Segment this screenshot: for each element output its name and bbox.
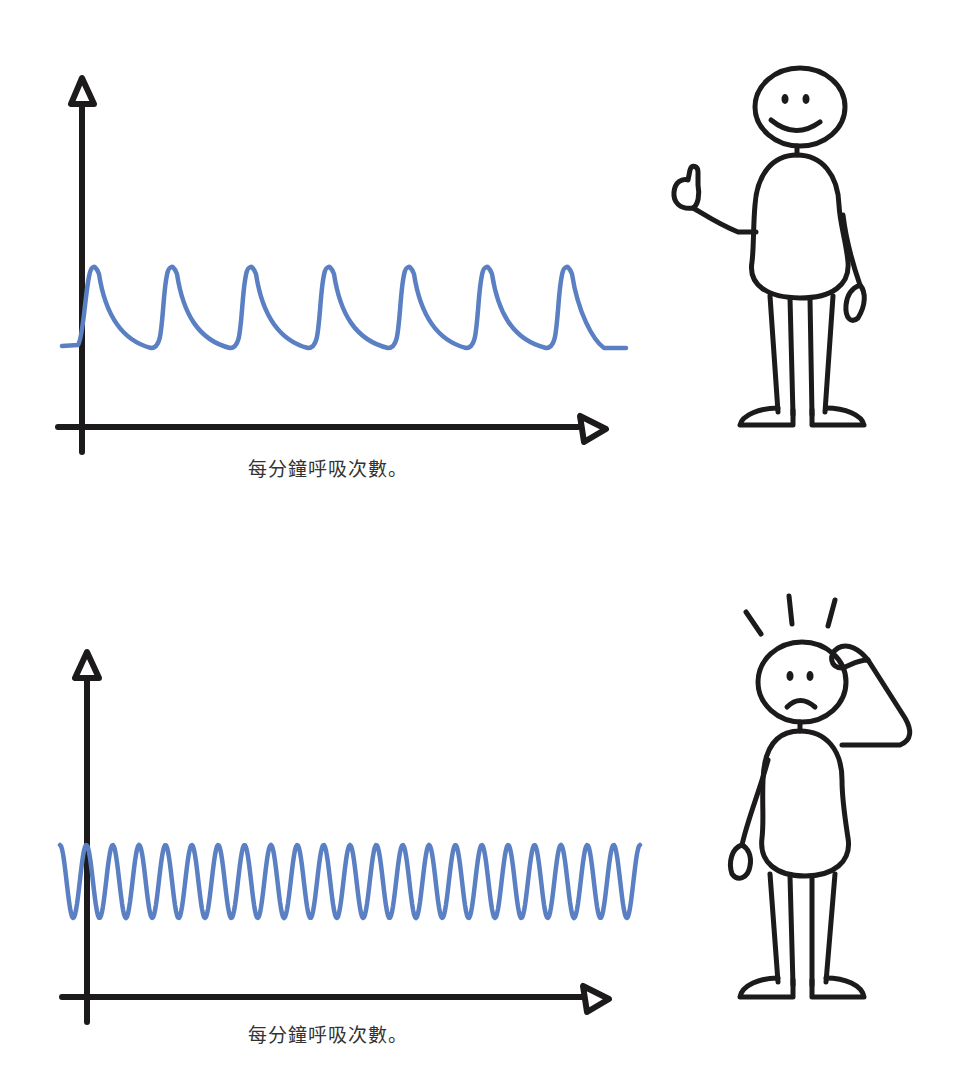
eye-left <box>787 671 794 681</box>
leg-left-inner <box>790 876 793 985</box>
eye-right <box>803 94 810 104</box>
thumbs-up-icon <box>674 166 699 208</box>
arm-left <box>693 208 756 232</box>
leg-right-outer <box>825 296 833 412</box>
body <box>751 155 848 298</box>
arm-raised <box>842 660 910 745</box>
hand-left <box>730 845 750 878</box>
leg-right-outer <box>826 874 835 982</box>
x-axis-arrow-icon <box>583 986 609 1012</box>
breathing-chart-fast <box>0 540 963 1080</box>
hand-right <box>846 285 864 320</box>
head <box>755 68 845 146</box>
breathing-wave-fast <box>60 845 640 918</box>
stress-mark-icon <box>828 600 835 626</box>
breathing-wave-slow <box>62 267 626 348</box>
y-axis-arrow-icon <box>75 652 99 678</box>
body <box>762 731 849 876</box>
panel-normal-breathing: 每分鐘呼吸次數。 <box>0 0 963 540</box>
foot-right <box>812 408 864 425</box>
x-axis-arrow-icon <box>580 416 606 442</box>
leg-left-inner <box>790 298 793 415</box>
x-axis-caption: 每分鐘呼吸次數。 <box>248 454 408 481</box>
happy-character <box>674 68 864 425</box>
foot-left <box>740 408 793 425</box>
foot-left <box>740 978 793 997</box>
stress-mark-icon <box>746 612 761 634</box>
y-axis-arrow-icon <box>71 78 94 104</box>
eye-right <box>807 671 814 681</box>
eye-left <box>782 94 789 104</box>
panel-rapid-breathing: 每分鐘呼吸次數。 <box>0 540 963 1080</box>
smile <box>771 120 820 131</box>
breathing-chart-slow <box>0 0 963 540</box>
stress-mark-icon <box>789 596 792 624</box>
frown <box>787 701 815 708</box>
leg-left-outer <box>770 296 778 412</box>
leg-right-inner <box>810 298 812 415</box>
x-axis-caption: 每分鐘呼吸次數。 <box>248 1020 408 1047</box>
worried-character <box>730 596 909 997</box>
leg-left-outer <box>770 874 778 982</box>
foot-right <box>812 978 864 997</box>
